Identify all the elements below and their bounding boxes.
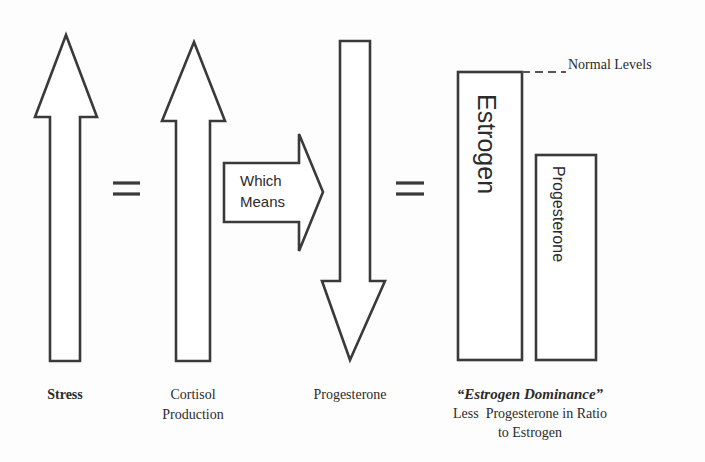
equals-sign-1 bbox=[113, 183, 140, 194]
progesterone-bar: Progesterone bbox=[536, 155, 596, 360]
which-means-right-arrow: Which Means bbox=[224, 134, 323, 251]
conclusion-line2: to Estrogen bbox=[498, 425, 562, 440]
progesterone-down-arrow bbox=[322, 41, 385, 360]
estrogen-bar: Estrogen bbox=[458, 72, 522, 360]
normal-levels-marker: Normal Levels bbox=[522, 57, 652, 72]
which-means-text-line1: Which bbox=[240, 172, 282, 189]
normal-levels-label: Normal Levels bbox=[568, 57, 652, 72]
cortisol-up-arrow bbox=[162, 42, 225, 361]
progesterone-bar-label: Progesterone bbox=[550, 166, 567, 262]
stress-up-arrow bbox=[35, 35, 97, 361]
estrogen-dominance-title: “Estrogen Dominance” bbox=[457, 386, 604, 402]
stress-label: Stress bbox=[47, 387, 83, 402]
equals-sign-2 bbox=[396, 183, 424, 194]
which-means-text-line2: Means bbox=[240, 193, 285, 210]
conclusion-line1: Less Progesterone in Ratio bbox=[453, 406, 607, 421]
estrogen-bar-label: Estrogen bbox=[473, 94, 501, 194]
cortisol-label-line1: Cortisol bbox=[170, 387, 215, 402]
estrogen-dominance-diagram: Which Means Estrogen Progesterone Normal… bbox=[0, 0, 705, 462]
cortisol-label-line2: Production bbox=[162, 407, 223, 422]
progesterone-arrow-label: Progesterone bbox=[313, 387, 386, 402]
